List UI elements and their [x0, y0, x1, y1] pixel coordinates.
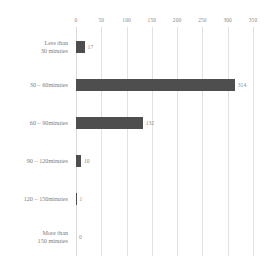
bar[interactable]: [76, 155, 81, 167]
bar-group: 17: [76, 41, 93, 53]
bar[interactable]: [76, 41, 85, 53]
chart-row: 120 – 150minutes1: [0, 180, 274, 218]
bar-value-label: 314: [238, 79, 246, 91]
x-tick-label: 0: [75, 13, 78, 27]
bar-value-label: 10: [84, 155, 90, 167]
x-tick-label: 100: [122, 13, 131, 27]
category-label: 60 – 90minutes: [0, 119, 68, 127]
chart-row: More than 150 minutes0: [0, 218, 274, 256]
bar[interactable]: [76, 193, 77, 205]
category-label: 120 – 150minutes: [0, 195, 68, 203]
category-label: 90 – 120minutes: [0, 157, 68, 165]
bar-group: 0: [76, 231, 82, 243]
x-axis-tick-labels: 050100150200250300350: [0, 13, 274, 27]
horizontal-bar-chart: 050100150200250300350 Less than 30 minut…: [0, 0, 274, 263]
x-tick-label: 250: [198, 13, 207, 27]
x-tick-label: 150: [148, 13, 157, 27]
x-tick-label: 300: [223, 13, 232, 27]
category-label: 30 – 60minutes: [0, 81, 68, 89]
bar-group: 132: [76, 117, 154, 129]
chart-row: 60 – 90minutes132: [0, 104, 274, 142]
bar[interactable]: [76, 117, 143, 129]
bar[interactable]: [76, 79, 235, 91]
bar-value-label: 17: [88, 41, 94, 53]
bar-value-label: 1: [80, 193, 83, 205]
bar-value-label: 0: [79, 231, 82, 243]
chart-row: 90 – 120minutes10: [0, 142, 274, 180]
chart-rows: Less than 30 minutes1730 – 60minutes3146…: [0, 28, 274, 256]
bar-value-label: 132: [146, 117, 154, 129]
bar-group: 1: [76, 193, 82, 205]
x-tick-label: 200: [173, 13, 182, 27]
bar-group: 10: [76, 155, 90, 167]
x-tick-label: 50: [98, 13, 104, 27]
x-tick-label: 350: [249, 13, 258, 27]
category-label: More than 150 minutes: [0, 229, 68, 245]
category-label: Less than 30 minutes: [0, 39, 68, 55]
bar-group: 314: [76, 79, 246, 91]
chart-row: 30 – 60minutes314: [0, 66, 274, 104]
chart-row: Less than 30 minutes17: [0, 28, 274, 66]
